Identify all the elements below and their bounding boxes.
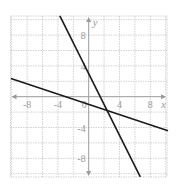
axes <box>12 17 167 176</box>
x-tick-label: 8 <box>148 99 153 110</box>
y-axis-label: y <box>92 16 98 28</box>
y-tick-label: -4 <box>77 123 85 134</box>
x-tick-label: 4 <box>117 99 122 110</box>
x-axis-arrow-left-icon <box>12 94 17 99</box>
coordinate-plane-chart: -8-404884-4-8 x y <box>0 0 176 189</box>
x-tick-label: -4 <box>54 99 62 110</box>
x-axis-label: x <box>160 98 166 110</box>
series-line-2 <box>11 78 168 130</box>
x-tick-label: -8 <box>23 99 31 110</box>
y-tick-label: 8 <box>81 30 86 41</box>
y-tick-label: -8 <box>77 153 85 164</box>
